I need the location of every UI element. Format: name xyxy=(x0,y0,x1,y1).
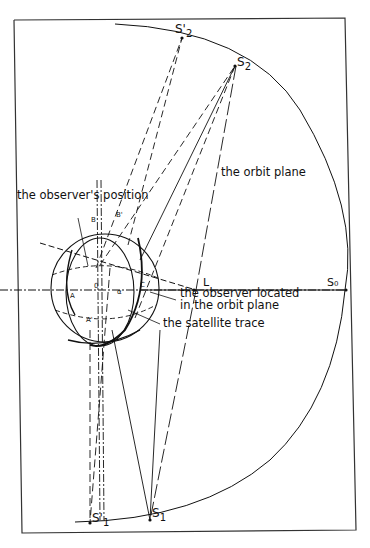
label-A: A xyxy=(70,292,75,300)
label-S2prime: S'2 xyxy=(175,22,192,39)
label-observer-in-orbit-2: in the orbit plane xyxy=(180,298,279,312)
globe-arc-A xyxy=(67,250,75,315)
label-orbit-plane: the orbit plane xyxy=(221,165,306,179)
globe-meridian xyxy=(66,238,134,346)
label-S1: S1 xyxy=(152,506,166,523)
label-B: B xyxy=(91,216,96,224)
label-A-prime: A' xyxy=(86,316,93,324)
orbit-arc xyxy=(75,24,348,522)
label-S1prime: S'1 xyxy=(92,511,109,528)
label-observer-position: the observer's position xyxy=(17,188,149,202)
line-to-S1-b xyxy=(150,330,160,520)
vertical-axis xyxy=(97,180,100,520)
line-to-S1-a xyxy=(112,330,150,520)
label-alpha: α xyxy=(117,288,122,296)
point-S0 xyxy=(344,288,347,291)
pointer-observer-orbit xyxy=(150,292,176,300)
label-B-prime: B' xyxy=(116,211,123,219)
label-S0: S₀ xyxy=(327,276,339,289)
point-S2prime xyxy=(180,36,183,39)
label-C: C xyxy=(140,281,145,289)
label-satellite-trace: the satellite trace xyxy=(163,316,265,330)
line-to-S2prime-b xyxy=(128,38,182,245)
vertical-axis-2 xyxy=(101,180,104,520)
frame-border xyxy=(14,18,356,533)
orbit-diagram: S'2 S2 S₀ L S'1 S1 B B' A A' C 0 α the o… xyxy=(0,0,370,548)
label-S2: S2 xyxy=(237,55,251,72)
line-to-S2-c xyxy=(140,66,235,260)
label-O: 0 xyxy=(94,282,98,290)
line-to-S2prime-a xyxy=(96,38,182,268)
